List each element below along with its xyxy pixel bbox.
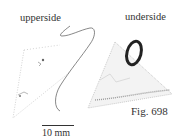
- upperside-specimen: [13, 45, 70, 118]
- scale-label: 10 mm: [42, 127, 70, 138]
- scale-bar: [42, 125, 74, 126]
- underside-specimen: [88, 40, 172, 108]
- figure-number: Fig. 698: [131, 105, 168, 117]
- upperside-label: upperside: [20, 12, 61, 23]
- filament: [56, 26, 95, 111]
- underside-label: underside: [125, 11, 166, 22]
